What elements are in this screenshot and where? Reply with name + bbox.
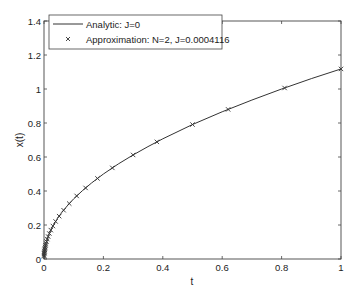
x-tick-label: 0.4 xyxy=(156,262,169,273)
y-tick-label: 0.2 xyxy=(28,220,41,231)
legend-label-approximation: Approximation: N=2, J=0.0004116 xyxy=(86,34,229,45)
x-marker-icon xyxy=(53,219,57,223)
x-tick-label: 0 xyxy=(41,262,46,273)
x-axis-label: t xyxy=(191,276,194,287)
x-marker-icon xyxy=(190,122,194,126)
legend: Analytic: J=0 Approximation: N=2, J=0.00… xyxy=(49,15,229,49)
x-tick-label: 1 xyxy=(338,262,343,273)
x-marker-icon xyxy=(110,166,114,170)
x-marker-icon xyxy=(51,224,55,228)
y-tick-label: 1 xyxy=(36,84,41,95)
y-tick-label: 0.4 xyxy=(28,186,41,197)
x-marker-icon xyxy=(74,194,78,198)
plot-area xyxy=(44,21,341,259)
y-tick-label: 1.2 xyxy=(28,50,41,61)
x-marker-icon xyxy=(226,107,230,111)
x-tick-label: 0.2 xyxy=(97,262,110,273)
chart-figure: 00.20.40.60.811.21.4 00.20.40.60.81 t x(… xyxy=(0,0,355,295)
x-tick-label: 0.6 xyxy=(216,262,229,273)
y-tick-label: 1.4 xyxy=(28,16,41,27)
analytic-series-line xyxy=(44,69,341,259)
x-marker-icon xyxy=(95,176,99,180)
x-marker-icon xyxy=(131,153,135,157)
x-tick-label: 0.8 xyxy=(275,262,288,273)
legend-label-analytic: Analytic: J=0 xyxy=(86,19,140,30)
y-axis-ticks: 00.20.40.60.811.21.4 xyxy=(28,16,341,265)
analytic-curve xyxy=(44,69,341,259)
y-tick-label: 0.6 xyxy=(28,152,41,163)
x-marker-icon xyxy=(67,201,71,205)
x-marker-icon xyxy=(83,186,87,190)
y-tick-label: 0.8 xyxy=(28,118,41,129)
approximation-series-markers xyxy=(42,67,343,259)
x-marker-icon xyxy=(57,214,61,218)
y-axis-label: x(t) xyxy=(14,133,25,147)
x-marker-icon xyxy=(155,140,159,144)
x-marker-icon xyxy=(61,208,65,212)
y-tick-label: 0 xyxy=(36,254,41,265)
axes-frame xyxy=(44,21,341,259)
x-axis-ticks: 00.20.40.60.81 xyxy=(41,21,343,273)
